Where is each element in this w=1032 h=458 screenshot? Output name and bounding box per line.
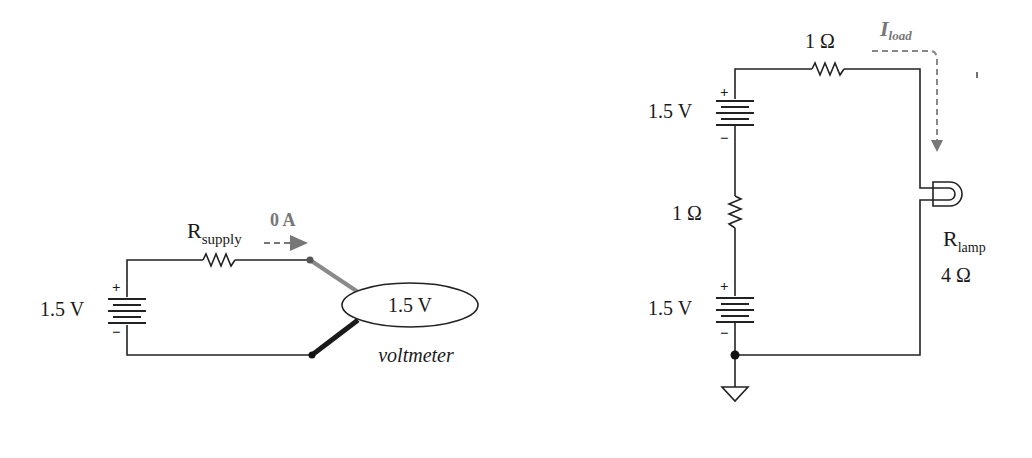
- junction-node: [731, 351, 740, 360]
- top-resistor-label: 1 Ω: [805, 30, 835, 52]
- resistor-top: [812, 63, 844, 75]
- current-load-arrow: [872, 51, 937, 142]
- lamp-label: Rlamp: [943, 226, 986, 255]
- red-probe-lead: [310, 260, 358, 292]
- left-bottom-wire: [127, 325, 311, 355]
- voltmeter-reading: 1.5 V: [388, 294, 433, 316]
- right-top-wire: [844, 69, 935, 188]
- battery-voltage-label: 1.5 V: [40, 298, 85, 320]
- probe-tip-top: [307, 257, 314, 264]
- bottom-battery-voltage-label: 1.5 V: [648, 297, 693, 319]
- left-top-wire: [127, 260, 203, 297]
- probe-tip-bottom: [309, 352, 316, 359]
- top-battery-minus: −: [720, 130, 729, 146]
- lamp-value: 4 Ω: [941, 264, 971, 286]
- right-circuit: 1 Ω Iload + − 1.5 V 1 Ω + −: [648, 16, 986, 401]
- circuit-diagram: + − 1.5 V Rsupply 0 A 1.5 V voltmeter 1 …: [0, 0, 1032, 458]
- resistor-supply: [203, 254, 235, 266]
- bottom-battery-minus: −: [720, 325, 729, 341]
- battery-plus: +: [112, 279, 121, 295]
- left-circuit: + − 1.5 V Rsupply 0 A 1.5 V voltmeter: [40, 210, 478, 366]
- right-right-wire: [735, 200, 935, 355]
- black-probe-lead: [312, 320, 358, 355]
- ground-icon: [722, 387, 748, 401]
- battery-bottom: [716, 298, 754, 322]
- voltmeter-caption: voltmeter: [378, 344, 454, 366]
- right-left-wire-top: [735, 69, 812, 99]
- arrow-down-icon: [931, 140, 943, 152]
- current-label: 0 A: [270, 210, 296, 230]
- battery-left: [108, 299, 146, 323]
- top-battery-plus: +: [720, 84, 729, 100]
- bottom-battery-plus: +: [720, 278, 729, 294]
- mid-resistor-label: 1 Ω: [672, 202, 702, 224]
- top-battery-voltage-label: 1.5 V: [648, 100, 693, 122]
- current-load-label: Iload: [879, 16, 912, 43]
- battery-minus: −: [112, 324, 121, 340]
- resistor-mid: [729, 196, 741, 228]
- resistor-label: Rsupply: [187, 218, 242, 247]
- lamp-icon: [933, 182, 962, 206]
- battery-top: [716, 101, 754, 125]
